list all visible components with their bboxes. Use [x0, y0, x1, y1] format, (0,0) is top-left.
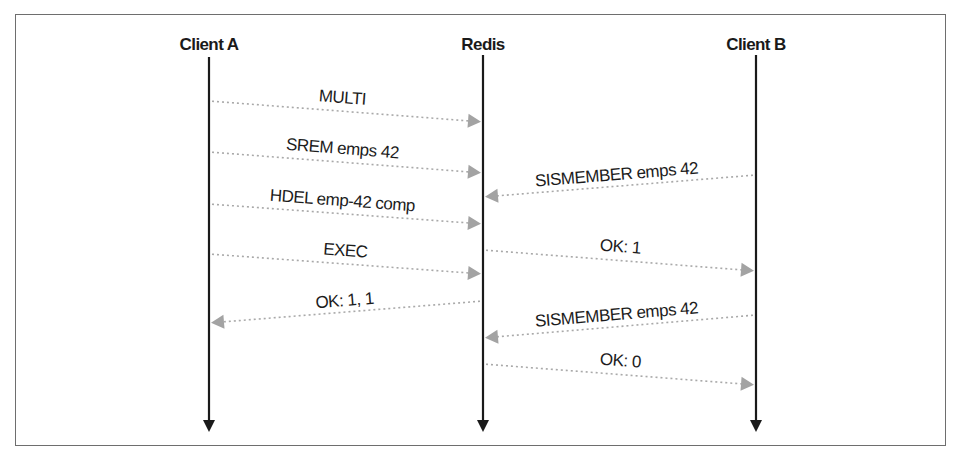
actor-label: Redis [461, 35, 504, 54]
arrow-right-icon [468, 216, 481, 230]
message-arrow: MULTI [212, 86, 481, 128]
actor-redis: Redis [461, 35, 504, 432]
actor-client-b: Client B [726, 35, 786, 432]
arrow-left-icon [485, 330, 499, 344]
actor-client-a: Client A [180, 35, 239, 432]
actor-label: Client A [180, 35, 239, 54]
message-arrow: HDEL emp-42 comp [212, 186, 481, 230]
message-arrow: OK: 0 [486, 349, 754, 390]
arrow-left-icon [485, 189, 499, 203]
message-arrow: OK: 1, 1 [211, 289, 480, 329]
arrow-right-icon [468, 266, 481, 280]
message-arrow: SISMEMBER emps 42 [485, 158, 753, 202]
message-label: OK: 1, 1 [315, 289, 375, 313]
arrow-left-icon [211, 315, 225, 329]
message-arrow: SREM emps 42 [212, 135, 481, 179]
message-arrow: SISMEMBER emps 42 [485, 298, 753, 344]
message-label: HDEL emp-42 comp [269, 186, 415, 216]
message-arrow: EXEC [212, 239, 481, 279]
message-label: MULTI [318, 86, 367, 109]
message-label: EXEC [323, 239, 369, 261]
message-label: OK: 0 [599, 349, 641, 371]
sequence-diagram: Client ARedisClient B MULTISREM emps 42S… [0, 0, 962, 458]
message-label: SREM emps 42 [285, 135, 399, 163]
lifeline-arrow-down-icon [750, 420, 762, 432]
actors-layer: Client ARedisClient B [180, 35, 786, 432]
lifeline-arrow-down-icon [203, 420, 215, 432]
arrow-right-icon [468, 165, 481, 179]
lifeline-arrow-down-icon [477, 420, 489, 432]
actor-label: Client B [726, 35, 786, 54]
arrow-right-icon [741, 263, 754, 277]
message-arrow: OK: 1 [486, 235, 754, 276]
message-label: OK: 1 [599, 235, 641, 257]
arrow-right-icon [741, 377, 754, 391]
arrow-right-icon [468, 114, 481, 128]
